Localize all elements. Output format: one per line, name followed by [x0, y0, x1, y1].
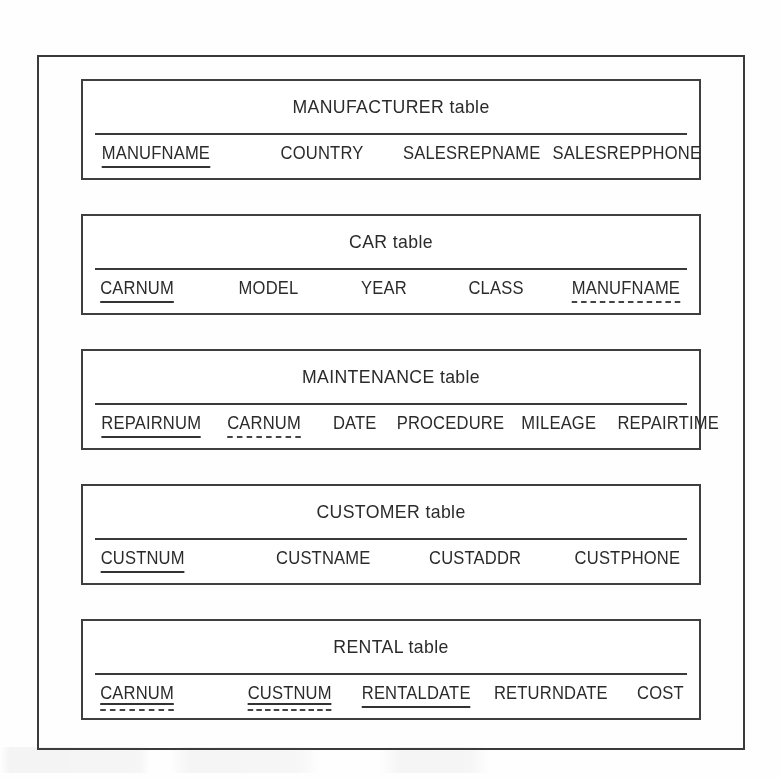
- attribute-custphone: CUSTPHONE: [575, 548, 681, 577]
- table-box-rental: RENTAL tableCARNUMCUSTNUMRENTALDATERETUR…: [81, 619, 701, 720]
- attribute-cell: CUSTNUM: [97, 548, 247, 577]
- attribute-cell: DATE: [317, 413, 392, 442]
- table-title: CUSTOMER table: [105, 486, 678, 524]
- table-header-rule: [95, 133, 687, 135]
- table-box-customer: CUSTOMER tableCUSTNUMCUSTNAMECUSTADDRCUS…: [81, 484, 701, 585]
- attribute-procedure: PROCEDURE: [397, 413, 504, 442]
- attribute-row: REPAIRNUMCARNUMDATEPROCEDUREMILEAGEREPAI…: [97, 413, 685, 449]
- attribute-salesrepphone: SALESREPPHONE: [553, 143, 702, 172]
- attribute-custaddr: CUSTADDR: [429, 548, 521, 577]
- table-title: RENTAL table: [105, 621, 678, 659]
- table-box-manufacturer: MANUFACTURER tableMANUFNAMECOUNTRYSALESR…: [81, 79, 701, 180]
- attribute-row: CUSTNUMCUSTNAMECUSTADDRCUSTPHONE: [97, 548, 685, 584]
- attribute-row: CARNUMCUSTNUMRENTALDATERETURNDATECOST: [97, 683, 685, 719]
- attribute-cell: CUSTNUM: [222, 683, 357, 712]
- attribute-cell: CARNUM: [212, 413, 317, 442]
- attribute-cell: SALESREPPHONE: [546, 143, 708, 172]
- attribute-salesrepname: SALESREPNAME: [403, 143, 540, 172]
- attribute-cell: CLASS: [437, 278, 555, 307]
- attribute-row: CARNUMMODELYEARCLASSMANUFNAME: [97, 278, 685, 314]
- attribute-cell: RENTALDATE: [357, 683, 475, 712]
- attribute-custnum: CUSTNUM: [101, 548, 185, 577]
- attribute-mileage: MILEAGE: [521, 413, 596, 442]
- attribute-cell: MODEL: [207, 278, 330, 307]
- attribute-cell: YEAR: [330, 278, 438, 307]
- attribute-cell: COUNTRY: [247, 143, 397, 172]
- attribute-cell: CARNUM: [97, 683, 222, 712]
- attribute-cell: CARNUM: [97, 278, 207, 307]
- attribute-custname: CUSTNAME: [276, 548, 370, 577]
- table-box-car: CAR tableCARNUMMODELYEARCLASSMANUFNAME: [81, 214, 701, 315]
- table-header-rule: [95, 538, 687, 540]
- attribute-cell: MILEAGE: [509, 413, 609, 442]
- attribute-class: CLASS: [468, 278, 523, 307]
- table-header-rule: [95, 673, 687, 675]
- attribute-rentaldate: RENTALDATE: [362, 683, 471, 712]
- attribute-cell: RETURNDATE: [475, 683, 625, 712]
- attribute-cell: CUSTPHONE: [550, 548, 685, 577]
- table-title: CAR table: [105, 216, 678, 254]
- table-header-rule: [95, 268, 687, 270]
- attribute-returndate: RETURNDATE: [493, 683, 607, 712]
- attribute-custnum: CUSTNUM: [247, 683, 331, 712]
- attribute-cell: SALESREPNAME: [397, 143, 546, 172]
- attribute-cell: CUSTNAME: [247, 548, 400, 577]
- attribute-repairtime: REPAIRTIME: [618, 413, 720, 442]
- attribute-row: MANUFNAMECOUNTRYSALESREPNAMESALESREPPHON…: [97, 143, 685, 179]
- table-header-rule: [95, 403, 687, 405]
- attribute-repairnum: REPAIRNUM: [101, 413, 201, 442]
- attribute-manufname: MANUFNAME: [572, 278, 680, 307]
- attribute-cell: REPAIRNUM: [97, 413, 212, 442]
- attribute-cell: PROCEDURE: [392, 413, 509, 442]
- attribute-year: YEAR: [361, 278, 407, 307]
- attribute-cell: COST: [625, 683, 685, 712]
- attribute-carnum: CARNUM: [228, 413, 302, 442]
- attribute-cell: MANUFNAME: [97, 143, 247, 172]
- attribute-date: DATE: [333, 413, 377, 442]
- attribute-model: MODEL: [238, 278, 298, 307]
- attribute-carnum: CARNUM: [100, 683, 174, 712]
- attribute-cell: CUSTADDR: [400, 548, 550, 577]
- attribute-cell: MANUFNAME: [555, 278, 685, 307]
- attribute-cell: REPAIRTIME: [609, 413, 724, 442]
- table-box-maintenance: MAINTENANCE tableREPAIRNUMCARNUMDATEPROC…: [81, 349, 701, 450]
- attribute-cost: COST: [637, 683, 684, 712]
- table-title: MANUFACTURER table: [105, 81, 678, 119]
- attribute-manufname: MANUFNAME: [102, 143, 210, 172]
- attribute-carnum: CARNUM: [100, 278, 174, 307]
- attribute-country: COUNTRY: [281, 143, 364, 172]
- table-list: MANUFACTURER tableMANUFNAMECOUNTRYSALESR…: [81, 79, 701, 754]
- schema-diagram-page: MANUFACTURER tableMANUFNAMECOUNTRYSALESR…: [0, 0, 780, 779]
- table-title: MAINTENANCE table: [105, 351, 678, 389]
